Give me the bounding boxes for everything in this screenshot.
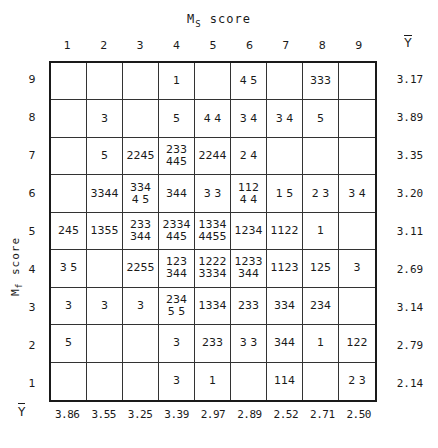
grid-cell xyxy=(339,288,375,325)
grid-cell: 4 5 xyxy=(231,63,267,100)
grid-cell: 122 xyxy=(339,325,375,362)
grid-cell: 3 xyxy=(159,363,195,400)
grid-cell: 233 xyxy=(195,325,231,362)
grid-cell xyxy=(303,363,339,400)
grid-cell: 1 xyxy=(195,363,231,400)
grid-cell: 5 xyxy=(51,325,87,362)
top-axis-title: MS score xyxy=(0,12,438,26)
row-header: 1 xyxy=(22,364,42,402)
grid-cell: 3 xyxy=(87,100,123,137)
column-mean-value: 2.97 xyxy=(195,408,231,426)
grid-cell: 1 xyxy=(303,325,339,362)
grid-cell xyxy=(339,213,375,250)
grid-cell: 1 5 xyxy=(267,175,303,212)
grid-cell: 1355 xyxy=(87,213,123,250)
row-header: 4 xyxy=(22,250,42,288)
grid-cell xyxy=(123,363,159,400)
column-mean-value: 2.52 xyxy=(268,408,304,426)
grid-cell: 233 445 xyxy=(159,138,195,175)
column-header: 4 xyxy=(158,39,194,55)
column-mean-value: 2.50 xyxy=(341,408,377,426)
column-mean-header: Y xyxy=(18,405,25,419)
grid-cell: 125 xyxy=(303,250,339,287)
grid-cell: 3 5 xyxy=(51,250,87,287)
grid-cell: 1234 xyxy=(231,213,267,250)
grid-cell: 1123 xyxy=(267,250,303,287)
row-header: 8 xyxy=(22,99,42,137)
grid-cell: 1334 xyxy=(195,288,231,325)
row-means: 3.173.893.353.203.112.693.142.792.14 xyxy=(385,61,435,402)
row-headers: 987654321 xyxy=(22,61,42,402)
column-mean-value: 3.55 xyxy=(85,408,121,426)
row-mean-header: Y xyxy=(388,35,428,50)
grid-cell: 1334 4455 xyxy=(195,213,231,250)
row-header: 3 xyxy=(22,288,42,326)
column-mean-value: 3.25 xyxy=(122,408,158,426)
grid-cell: 5 xyxy=(87,138,123,175)
grid-cell: 3 3 xyxy=(231,325,267,362)
grid-cell: 5 xyxy=(159,100,195,137)
grid-cell: 344 xyxy=(267,325,303,362)
grid-cell: 2 3 xyxy=(339,363,375,400)
grid-cell xyxy=(339,138,375,175)
grid-cell: 334 4 5 xyxy=(123,175,159,212)
row-header: 5 xyxy=(22,213,42,251)
grid-cell: 2255 xyxy=(123,250,159,287)
column-header: 2 xyxy=(85,39,121,55)
grid-cell: 334 xyxy=(267,288,303,325)
row-mean-value: 2.79 xyxy=(385,326,435,364)
grid-cell: 2 3 xyxy=(303,175,339,212)
grid-cell: 333 xyxy=(303,63,339,100)
column-headers: 123456789 xyxy=(49,39,377,55)
grid-cell xyxy=(51,138,87,175)
row-mean-value: 3.17 xyxy=(385,61,435,99)
grid-cell xyxy=(51,100,87,137)
grid-cell xyxy=(339,100,375,137)
grid-cell: 233 xyxy=(231,288,267,325)
grid-cell: 4 4 xyxy=(195,100,231,137)
grid-cell xyxy=(303,138,339,175)
row-mean-value: 3.89 xyxy=(385,99,435,137)
grid-cell: 1222 3334 xyxy=(195,250,231,287)
grid-cell: 1233 344 xyxy=(231,250,267,287)
row-mean-value: 3.11 xyxy=(385,213,435,251)
grid-cell xyxy=(87,63,123,100)
column-mean-value: 3.39 xyxy=(158,408,194,426)
grid-cell: 3 4 xyxy=(231,100,267,137)
grid-cell xyxy=(231,363,267,400)
grid-cell: 1 xyxy=(159,63,195,100)
grid-cell: 3 xyxy=(159,325,195,362)
grid-cell xyxy=(123,325,159,362)
row-mean-value: 3.20 xyxy=(385,175,435,213)
grid-cell: 344 xyxy=(159,175,195,212)
column-means: 3.863.553.253.392.972.892.522.712.50 xyxy=(49,408,377,426)
grid-cell: 3 xyxy=(123,288,159,325)
row-mean-value: 3.35 xyxy=(385,137,435,175)
grid-cell xyxy=(267,63,303,100)
row-mean-value: 3.14 xyxy=(385,288,435,326)
grid-cell xyxy=(51,63,87,100)
grid-cell: 2245 xyxy=(123,138,159,175)
grid-cell xyxy=(87,325,123,362)
column-header: 8 xyxy=(304,39,340,55)
grid-cell: 3 xyxy=(87,288,123,325)
grid-cell: 2 4 xyxy=(231,138,267,175)
row-header: 2 xyxy=(22,326,42,364)
column-mean-value: 3.86 xyxy=(49,408,85,426)
grid-cell: 245 xyxy=(51,213,87,250)
grid-cell xyxy=(195,63,231,100)
grid-cell: 233 344 xyxy=(123,213,159,250)
column-header: 5 xyxy=(195,39,231,55)
grid-cell: 3 4 xyxy=(339,175,375,212)
column-mean-value: 2.71 xyxy=(304,408,340,426)
column-header: 7 xyxy=(268,39,304,55)
grid-cell xyxy=(51,175,87,212)
column-header: 3 xyxy=(122,39,158,55)
grid-cell: 2334 445 xyxy=(159,213,195,250)
grid-cell xyxy=(267,138,303,175)
grid-cell: 3344 xyxy=(87,175,123,212)
left-axis-title: Mf score xyxy=(9,232,22,302)
grid-cell xyxy=(123,63,159,100)
grid-cell: 1122 xyxy=(267,213,303,250)
column-header: 1 xyxy=(49,39,85,55)
